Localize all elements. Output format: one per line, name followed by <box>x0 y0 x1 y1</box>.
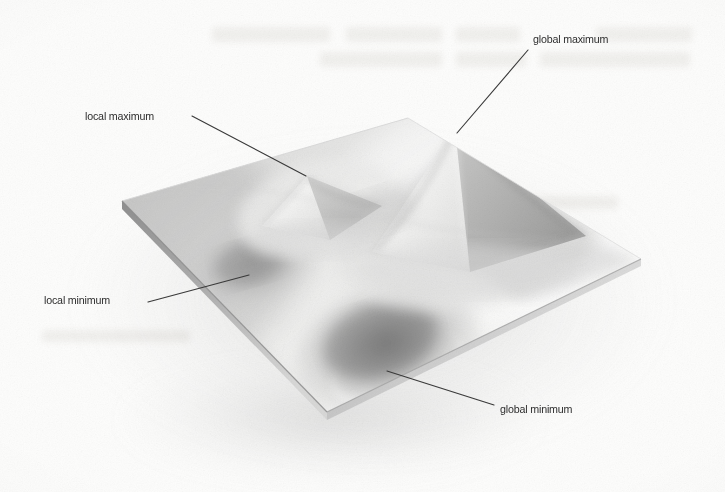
label-local-maximum: local maximum <box>85 110 154 122</box>
label-global-minimum: global minimum <box>500 403 572 415</box>
surface-plot-svg <box>0 0 725 492</box>
label-global-maximum: global maximum <box>533 33 608 45</box>
surface-extrema-figure: global maximum local maximum local minim… <box>0 0 725 492</box>
label-local-minimum: local minimum <box>44 294 110 306</box>
